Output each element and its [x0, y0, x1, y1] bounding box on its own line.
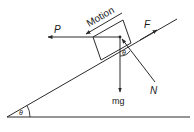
diagram-canvas: Motion P F mg N θ θ	[0, 0, 194, 132]
theta-base-label: θ	[19, 109, 23, 116]
theta-block-label: θ	[122, 49, 126, 56]
force-f-label: F	[144, 19, 151, 30]
base-angle-arc	[27, 106, 30, 118]
force-f-arrow	[140, 30, 157, 40]
motion-label: Motion	[85, 4, 116, 29]
force-mg-label: mg	[112, 96, 125, 106]
force-p-label: P	[54, 24, 61, 35]
force-n-arrow	[122, 39, 155, 82]
incline-diagram: Motion P F mg N θ θ	[0, 0, 194, 132]
force-n-label: N	[150, 85, 158, 96]
application-point	[119, 36, 122, 39]
